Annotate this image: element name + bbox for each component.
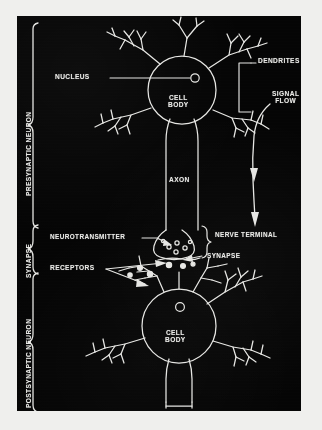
presynaptic-nucleus bbox=[191, 74, 199, 82]
callout-cell-body-lower: CELL BODY bbox=[165, 329, 186, 344]
presynaptic-soma bbox=[148, 56, 216, 124]
callout-axon: AXON bbox=[169, 176, 190, 183]
dendrite-post-left bbox=[86, 338, 145, 363]
dendrite-post-upper-right bbox=[207, 268, 262, 304]
postsynaptic-soma bbox=[142, 289, 216, 363]
presynaptic-neuron bbox=[95, 17, 269, 230]
dendrite-top-center bbox=[173, 17, 204, 56]
postsynaptic-nucleus bbox=[176, 303, 185, 312]
side-label-postsynaptic: POSTSYNAPTIC NEURON bbox=[25, 319, 32, 408]
dendrite-post-right bbox=[213, 341, 270, 366]
leader-dendrites-bracket bbox=[239, 63, 256, 112]
dendrite-top-left bbox=[107, 28, 160, 64]
dendrite-left bbox=[95, 108, 151, 134]
diagram-panel: PRESYNAPTIC NEURON SYNAPSE POSTSYNAPTIC … bbox=[17, 16, 301, 411]
side-label-presynaptic: PRESYNAPTIC NEURON bbox=[25, 111, 32, 196]
callout-receptors: RECEPTORS bbox=[50, 264, 95, 271]
callout-cell-body-upper: CELL BODY bbox=[168, 94, 189, 109]
callout-nucleus: NUCLEUS bbox=[55, 73, 90, 80]
side-label-synapse: SYNAPSE bbox=[25, 244, 32, 278]
leader-receptors bbox=[106, 260, 167, 287]
nerve-terminal bbox=[154, 230, 195, 260]
figure-root: PRESYNAPTIC NEURON SYNAPSE POSTSYNAPTIC … bbox=[0, 0, 322, 430]
callout-synapse-gap: SYNAPSE bbox=[207, 252, 240, 259]
callout-signal-flow: SIGNAL FLOW bbox=[272, 90, 299, 105]
callout-dendrites: DENDRITES bbox=[258, 57, 300, 64]
callout-neurotransmitter: NEUROTRANSMITTER bbox=[50, 233, 125, 240]
axon bbox=[166, 119, 198, 230]
postsynaptic-axon bbox=[166, 359, 192, 408]
dendrite-post-center-right bbox=[193, 258, 227, 292]
leader-signal-flow bbox=[250, 104, 270, 227]
callout-nerve-terminal: NERVE TERMINAL bbox=[215, 231, 277, 238]
